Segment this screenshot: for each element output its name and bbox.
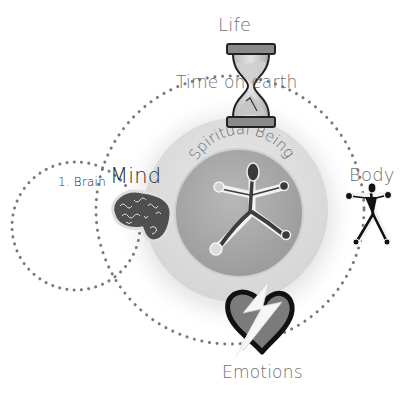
broken-heart-icon bbox=[228, 281, 293, 357]
diagram-canvas: Spiritual Being bbox=[0, 0, 410, 397]
emotions-label: Emotions bbox=[222, 362, 303, 382]
body-label: Body bbox=[349, 164, 395, 185]
spiritual-being-disc bbox=[175, 149, 303, 277]
brain-sublabel: 1. Brain bbox=[58, 175, 106, 189]
mind-label: Mind bbox=[110, 164, 161, 188]
time-on-earth-label: Time on earth bbox=[176, 72, 298, 92]
diagram-graphics: Spiritual Being bbox=[0, 0, 410, 397]
life-label: Life bbox=[218, 14, 251, 35]
